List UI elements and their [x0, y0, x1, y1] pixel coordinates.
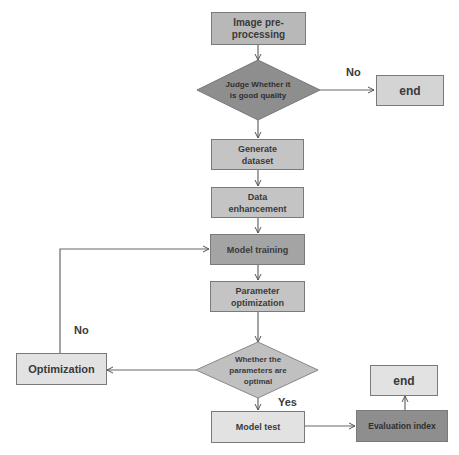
node-end-top: end [376, 75, 444, 106]
node-image-preprocessing: Image pre-processing [211, 12, 306, 45]
node-label: Whether the parameters are optimal [224, 354, 292, 387]
node-label: Image pre-processing [212, 17, 305, 41]
node-optimization: Optimization [16, 353, 107, 385]
edge-label-optimal-no: No [74, 324, 89, 336]
edge-label-optimal-yes: Yes [278, 396, 297, 408]
node-judge-quality-label: Judge Whether it is good quality [222, 64, 294, 116]
node-label: Evaluation index [368, 420, 436, 432]
node-label: Data enhancement [228, 191, 288, 215]
node-label: Model training [227, 244, 289, 256]
node-data-enhancement: Data enhancement [211, 187, 304, 218]
node-label: Judge Whether it is good quality [222, 79, 294, 101]
node-generate-dataset: Generate dataset [211, 139, 304, 170]
node-parameter-optimization: Parameter optimization [210, 281, 305, 312]
edge-label-quality-no: No [346, 66, 361, 78]
node-label: Model test [236, 421, 281, 433]
node-label: end [399, 85, 420, 97]
node-evaluation-index: Evaluation index [356, 410, 448, 442]
node-label: Parameter optimization [223, 285, 293, 309]
node-end-bottom: end [370, 365, 438, 396]
node-label: Optimization [28, 363, 95, 375]
node-model-training: Model training [210, 234, 305, 265]
node-label: end [393, 375, 414, 387]
node-model-test: Model test [211, 411, 305, 443]
node-parameters-optimal-label: Whether the parameters are optimal [224, 348, 292, 392]
node-label: Generate dataset [228, 143, 288, 167]
